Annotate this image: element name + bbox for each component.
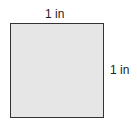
top-side-length-label: 1 in xyxy=(45,8,64,20)
square-shape xyxy=(10,23,104,118)
right-side-length-label: 1 in xyxy=(110,64,129,76)
